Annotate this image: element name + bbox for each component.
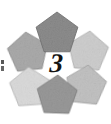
pentagon-ring-illustration: [0, 0, 111, 124]
edge-glyph-fragment: [1, 60, 4, 72]
figure-canvas: 3: [0, 0, 111, 124]
pentagon-top: [36, 12, 78, 52]
